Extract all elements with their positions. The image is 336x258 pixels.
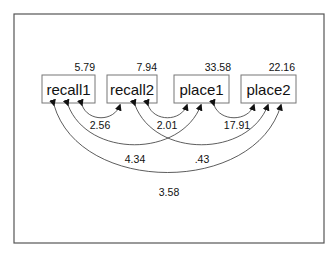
variable-box-recall1: recall1 5.79 (42, 61, 95, 103)
variable-box-place1: place1 33.58 (174, 61, 231, 103)
variable-name: place2 (246, 81, 290, 98)
variance-label: 7.94 (137, 61, 158, 73)
variable-box-place2: place2 22.16 (241, 61, 296, 103)
variance-label: 33.58 (205, 61, 231, 73)
variable-name: place1 (179, 81, 223, 98)
variable-box-recall2: recall2 7.94 (107, 61, 157, 103)
covariance-label: .43 (195, 153, 210, 165)
covariance-label: 17.91 (224, 119, 250, 131)
covariance-label: 3.58 (159, 186, 180, 198)
variance-label: 5.79 (75, 61, 96, 73)
covariance-label: 2.56 (90, 119, 111, 131)
path-diagram: recall1 5.79 recall2 7.94 place1 33.58 p… (0, 0, 336, 258)
variable-name: recall2 (110, 81, 154, 98)
covariance-arrow-recall1-recall2 (82, 105, 120, 118)
covariance-arrow-recall1-place2 (54, 105, 281, 173)
variance-label: 22.16 (269, 61, 295, 73)
covariance-arrow-recall2-place1 (148, 105, 187, 118)
covariance-arrow-recall1-place1 (68, 105, 201, 145)
covariance-label: 4.34 (125, 153, 146, 165)
covariance-arrow-place1-place2 (214, 105, 254, 118)
covariance-label: 2.01 (157, 119, 178, 131)
variable-name: recall1 (46, 81, 90, 98)
